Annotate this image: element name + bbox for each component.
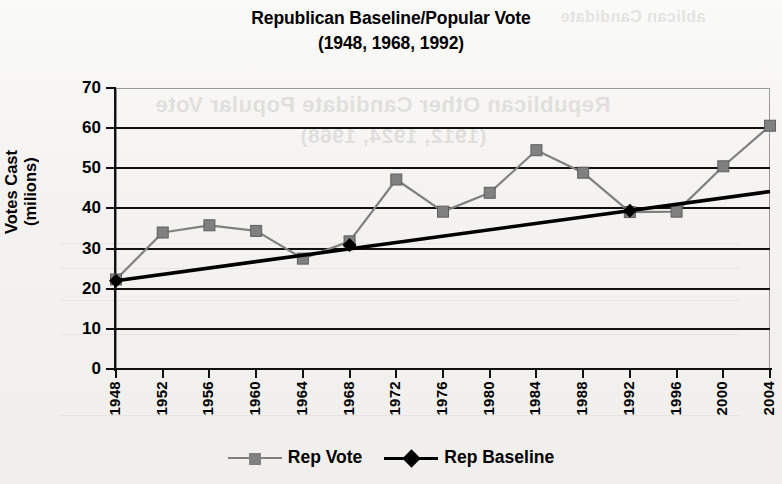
x-axis-tick-label: 1992	[621, 381, 636, 416]
x-axis-tick	[535, 369, 537, 378]
x-axis-tick-label: 1972	[387, 381, 402, 416]
gridline	[116, 328, 770, 330]
gridline	[116, 288, 770, 290]
x-axis-tick	[442, 369, 444, 378]
y-axis-tick	[106, 328, 115, 330]
chart-title: Republican Baseline/Popular Vote (1948, …	[0, 6, 782, 56]
chart-figure: Republican Baseline/Popular Vote (1948, …	[0, 0, 782, 484]
x-axis-tick-label: 1996	[668, 381, 683, 416]
legend-diamond-marker	[403, 449, 421, 467]
gridline	[116, 167, 770, 169]
x-axis-tick	[302, 369, 304, 378]
y-axis-tick	[106, 207, 115, 209]
y-axis-tick	[106, 368, 115, 370]
legend-key	[384, 450, 438, 466]
chart-title-line1: Republican Baseline/Popular Vote	[251, 8, 530, 28]
x-axis-tick-label: 1968	[341, 381, 356, 416]
y-axis-tick-label: 20	[1, 280, 101, 297]
x-axis-tick-label: 1988	[574, 381, 589, 416]
y-axis-tick-label: 0	[1, 360, 101, 377]
gridline	[116, 248, 770, 250]
x-axis-tick-label: 1964	[294, 381, 309, 416]
y-axis-tick-label: 40	[1, 199, 101, 216]
x-axis-tick-label: 1960	[247, 381, 262, 416]
x-axis-tick-label: 2000	[714, 381, 729, 416]
gridline	[116, 127, 770, 129]
x-axis-tick	[162, 369, 164, 378]
x-axis-tick-label: 1956	[200, 381, 215, 416]
legend-item[interactable]: Rep Baseline	[384, 447, 554, 468]
legend-label: Rep Baseline	[444, 447, 554, 468]
legend-item[interactable]: Rep Vote	[228, 447, 363, 468]
plot-area	[116, 88, 770, 369]
x-axis-tick-label: 2004	[761, 381, 776, 416]
x-axis-tick-label: 1976	[434, 381, 449, 416]
y-axis-tick-label: 60	[1, 119, 101, 136]
y-axis-tick-label: 10	[1, 320, 101, 337]
y-axis-tick	[106, 248, 115, 250]
y-axis-tick-labels: 010203040506070	[0, 0, 101, 484]
x-axis-tick	[676, 369, 678, 378]
x-axis-tick-label: 1980	[481, 381, 496, 416]
gridline	[116, 207, 770, 209]
x-axis-tick	[115, 369, 117, 378]
x-axis-tick	[395, 369, 397, 378]
y-axis-tick	[106, 87, 115, 89]
x-axis-tick	[722, 369, 724, 378]
x-axis-tick	[629, 369, 631, 378]
x-axis-tick-label: 1948	[107, 381, 122, 416]
chart-legend: Rep VoteRep Baseline	[0, 447, 782, 468]
y-axis-tick	[106, 167, 115, 169]
y-axis-tick-label: 50	[1, 159, 101, 176]
y-axis-tick-label: 70	[1, 79, 101, 96]
x-axis-tick	[582, 369, 584, 378]
legend-square-marker	[249, 453, 261, 465]
legend-label: Rep Vote	[288, 447, 363, 468]
y-axis-tick-label: 30	[1, 240, 101, 257]
x-axis-tick	[349, 369, 351, 378]
legend-key	[228, 450, 282, 466]
x-axis-tick	[255, 369, 257, 378]
x-axis-tick-label: 1984	[527, 381, 542, 416]
chart-title-line2: (1948, 1968, 1992)	[0, 31, 782, 56]
x-axis-tick	[489, 369, 491, 378]
x-axis-tick	[208, 369, 210, 378]
x-axis-tick	[769, 369, 771, 378]
y-axis-tick	[106, 288, 115, 290]
x-axis-tick-label: 1952	[154, 381, 169, 416]
y-axis-tick	[106, 127, 115, 129]
